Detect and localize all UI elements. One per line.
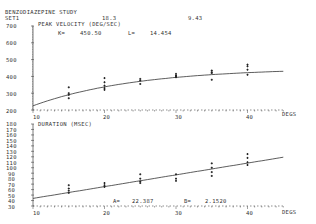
bottom-fit-curve	[33, 157, 283, 198]
plot-canvas	[0, 0, 316, 224]
top-fit-curve	[33, 71, 283, 106]
